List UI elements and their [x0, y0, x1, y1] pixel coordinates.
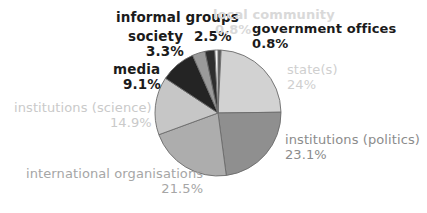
slice-label-institutions-science: institutions (science) 14.9%	[14, 101, 152, 130]
pie-slice	[218, 50, 281, 113]
slice-label-media: media 9.1%	[113, 62, 161, 92]
slice-label-media-pct: 9.1%	[123, 77, 161, 92]
slice-label-society-name: society	[128, 28, 183, 44]
slice-label-international-organisations-name: international organisations	[26, 167, 203, 182]
slice-label-government-offices-pct: 0.8%	[252, 37, 396, 52]
slice-label-institutions-science-pct: 14.9%	[14, 116, 152, 131]
slice-label-institutions-politics: institutions (politics) 23.1%	[285, 133, 420, 162]
pie-slice-group	[155, 50, 281, 176]
slice-label-international-organisations: international organisations 21.5%	[26, 167, 203, 196]
slice-label-institutions-politics-pct: 23.1%	[285, 148, 420, 163]
slice-label-institutions-science-name: institutions (science)	[14, 101, 152, 116]
slice-label-states-pct: 24%	[287, 78, 338, 93]
slice-label-media-name: media	[113, 62, 161, 77]
slice-label-international-organisations-pct: 21.5%	[26, 182, 203, 197]
slice-label-government-offices: government offices 0.8%	[252, 22, 396, 51]
slice-label-local-community-name: local community	[213, 7, 335, 22]
slice-label-states-name: state(s)	[287, 63, 338, 78]
slice-label-government-offices-name: government offices	[252, 22, 396, 37]
pie-slice	[218, 112, 281, 175]
slice-label-states: state(s) 24%	[287, 63, 338, 92]
slice-label-institutions-politics-name: institutions (politics)	[285, 133, 420, 148]
pie-chart: informal groups society 2.5% 3.3% media …	[0, 0, 427, 213]
slice-label-society-pct: 3.3%	[146, 44, 232, 59]
